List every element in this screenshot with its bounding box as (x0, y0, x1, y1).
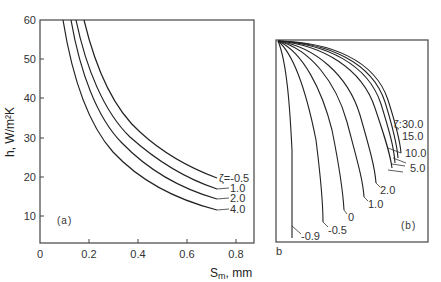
curve-b-15 (278, 41, 398, 158)
curve-label-b-neg0-9: -0.9 (301, 230, 320, 242)
panel-label-b: (b) (401, 220, 416, 231)
x-tick-0-8: 0.8 (228, 248, 243, 260)
x-tick-0-2: 0.2 (81, 248, 96, 260)
curve-label-b-2: 2.0 (380, 184, 395, 196)
curve-label-b-10: 10.0 (405, 147, 426, 159)
curve-label-b-30: ζ:30.0 (394, 118, 423, 130)
panel-a-curves (63, 20, 217, 210)
curve-label-b-neg0-5: -0.5 (328, 224, 347, 236)
curve-a-2-0 (71, 20, 217, 199)
x-axis-title: Sm, mm (210, 266, 252, 281)
y-tick-10: 10 (24, 210, 36, 222)
curve-b-10 (278, 41, 395, 163)
x-tick-0: 0 (37, 248, 43, 260)
curve-label-b-0: 0 (348, 211, 354, 223)
curve-b-0 (278, 41, 344, 210)
curve-label-b-15: 15.0 (402, 130, 423, 142)
y-tick-50: 50 (24, 53, 36, 65)
panel-a-leaders (217, 188, 229, 210)
x-axis (89, 239, 236, 243)
y-axis-title: h, W/m²K (3, 107, 17, 157)
y-tick-40: 40 (24, 92, 36, 104)
curve-label-a-4-0: 4.0 (230, 203, 245, 215)
figure: 10 20 30 40 50 60 0 0.2 0.4 0.6 0.8 h, W… (0, 0, 441, 282)
panel-a: 10 20 30 40 50 60 0 0.2 0.4 0.6 0.8 h, W… (3, 14, 254, 281)
y-tick-60: 60 (24, 14, 36, 26)
y-tick-30: 30 (24, 132, 36, 144)
curve-b-5 (278, 41, 392, 168)
curve-b-30 (278, 41, 401, 153)
curve-b-neg0-9 (278, 41, 292, 238)
panel-label-a: (a) (57, 215, 72, 226)
curve-label-b-5: 5.0 (410, 162, 425, 174)
curve-label-b-1: 1.0 (368, 198, 383, 210)
y-tick-20: 20 (24, 171, 36, 183)
curve-a-4-0 (63, 20, 217, 210)
x-tick-0-4: 0.4 (130, 248, 145, 260)
curve-a-1-0 (76, 20, 217, 189)
panel-b: ζ:30.0 15.0 10.0 5.0 2.0 1.0 0 -0.5 -0.9… (276, 40, 428, 257)
x-tick-0-6: 0.6 (179, 248, 194, 260)
corner-label-b: b (276, 245, 282, 257)
